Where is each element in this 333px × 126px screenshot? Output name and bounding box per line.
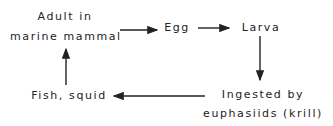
arrows-layer: [0, 0, 333, 126]
